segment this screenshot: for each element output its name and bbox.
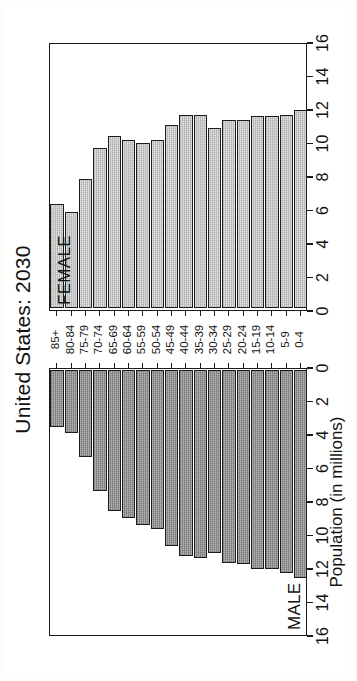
age-tick-left: [185, 363, 186, 368]
bar-male-40-44: [179, 371, 192, 557]
female-axis-tick-label: 6: [314, 196, 332, 226]
age-tick-left: [128, 363, 129, 368]
female-axis-tick: [307, 143, 313, 145]
age-group-label: 40-44: [179, 311, 191, 368]
age-group-label: 55-59: [136, 311, 148, 368]
male-axis-tick: [307, 535, 313, 537]
age-tick-right: [300, 311, 301, 316]
age-tick-right: [243, 311, 244, 316]
age-group-label: 0-4: [294, 311, 306, 368]
female-axis-tick: [307, 277, 313, 279]
bar-female-40-44: [179, 115, 192, 309]
age-group-label: 30-34: [208, 311, 220, 368]
age-tick-right: [71, 311, 72, 316]
x-axis-title-male: Population (in millions): [327, 368, 347, 636]
age-tick-right: [185, 311, 186, 316]
age-tick-right: [56, 311, 57, 316]
bar-male-80-84: [65, 371, 78, 434]
male-panel-label: MALE: [285, 583, 305, 631]
age-tick-right: [114, 311, 115, 316]
age-group-label: 15-19: [251, 311, 263, 368]
age-group-label: 85+: [50, 311, 62, 368]
age-group-label-column: 85+80-8475-7970-7465-6960-6455-5950-5445…: [49, 311, 307, 368]
age-tick-left: [214, 363, 215, 368]
age-tick-left: [286, 363, 287, 368]
bar-female-25-29: [222, 120, 235, 309]
bar-male-30-34: [208, 371, 221, 553]
bar-male-0-4: [294, 371, 307, 578]
bar-female-60-64: [122, 140, 135, 309]
bar-male-55-59: [136, 371, 149, 525]
female-axis-tick: [307, 310, 313, 312]
bar-female-0-4: [294, 110, 307, 309]
bar-male-15-19: [251, 371, 264, 570]
age-tick-left: [142, 363, 143, 368]
female-axis-tick-label: 10: [314, 129, 332, 159]
age-group-label: 45-49: [165, 311, 177, 368]
age-tick-left: [257, 363, 258, 368]
age-tick-right: [85, 311, 86, 316]
bar-male-5-9: [280, 371, 293, 573]
male-axis-tick: [307, 434, 313, 436]
age-tick-right: [214, 311, 215, 316]
age-tick-right: [157, 311, 158, 316]
age-tick-right: [271, 311, 272, 316]
bar-male-70-74: [93, 371, 106, 492]
bar-male-35-39: [194, 371, 207, 558]
bar-male-50-54: [151, 371, 164, 530]
chart-title: United States: 2030: [11, 5, 35, 674]
age-tick-left: [228, 363, 229, 368]
male-axis-tick: [307, 367, 313, 369]
female-axis-tick-label: 4: [314, 229, 332, 259]
female-axis-tick-label: 16: [314, 28, 332, 58]
bar-male-65-69: [108, 371, 121, 512]
female-axis-tick: [307, 76, 313, 78]
age-tick-right: [171, 311, 172, 316]
bar-female-35-39: [194, 115, 207, 309]
age-tick-right: [128, 311, 129, 316]
bar-female-50-54: [151, 140, 164, 309]
age-tick-left: [271, 363, 272, 368]
female-bars: [50, 44, 306, 310]
female-axis-tick-label: 12: [314, 95, 332, 125]
age-group-label: 70-74: [93, 311, 105, 368]
male-axis-tick: [307, 401, 313, 403]
bar-male-75-79: [79, 371, 92, 457]
female-axis-tick: [307, 210, 313, 212]
male-axis-tick: [307, 602, 313, 604]
female-plot-panel: [49, 43, 307, 311]
male-axis-tick: [307, 501, 313, 503]
age-tick-right: [257, 311, 258, 316]
male-axis-tick: [307, 568, 313, 570]
age-tick-left: [85, 363, 86, 368]
male-axis-tick: [307, 468, 313, 470]
rotated-figure-wrapper: United States: 2030 MALE 0246810121416 8…: [5, 5, 350, 674]
male-plot-panel: [49, 368, 307, 636]
age-group-label: 5-9: [280, 311, 292, 368]
female-axis-tick-label: 0: [314, 296, 332, 326]
female-axis-tick: [307, 109, 313, 111]
bar-female-30-34: [208, 128, 221, 309]
bar-male-25-29: [222, 371, 235, 563]
age-tick-left: [243, 363, 244, 368]
age-group-label: 75-79: [79, 311, 91, 368]
age-tick-left: [99, 363, 100, 368]
age-group-label: 50-54: [151, 311, 163, 368]
female-axis-tick: [307, 42, 313, 44]
age-tick-right: [200, 311, 201, 316]
bar-female-20-24: [237, 120, 250, 309]
age-tick-right: [99, 311, 100, 316]
scanned-page: United States: 2030 MALE 0246810121416 8…: [0, 0, 357, 681]
age-tick-left: [171, 363, 172, 368]
age-tick-right: [286, 311, 287, 316]
age-group-label: 60-64: [122, 311, 134, 368]
bar-female-45-49: [165, 125, 178, 309]
age-group-label: 35-39: [194, 311, 206, 368]
female-axis-tick: [307, 243, 313, 245]
female-axis-tick-label: 14: [314, 62, 332, 92]
bar-male-10-14: [265, 371, 278, 570]
population-pyramid-figure: United States: 2030 MALE 0246810121416 8…: [5, 5, 350, 674]
age-group-label: 10-14: [265, 311, 277, 368]
age-tick-left: [56, 363, 57, 368]
age-group-label: 65-69: [108, 311, 120, 368]
